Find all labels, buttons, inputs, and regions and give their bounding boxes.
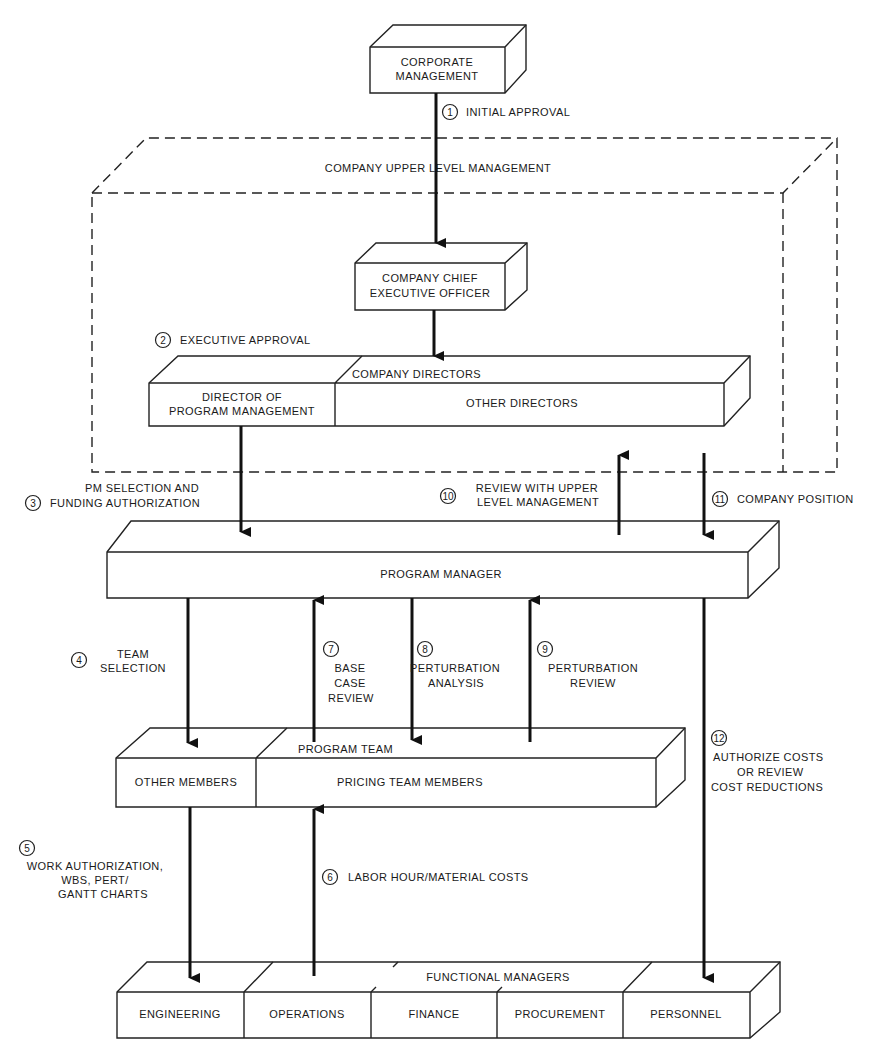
svg-text:WORK AUTHORIZATION,: WORK AUTHORIZATION,: [27, 860, 163, 872]
other-directors: OTHER DIRECTORS: [466, 397, 578, 409]
svg-text:PROGRAM MANAGEMENT: PROGRAM MANAGEMENT: [169, 405, 315, 417]
step-12-label: 12 AUTHORIZE COSTS OR REVIEW COST REDUCT…: [711, 731, 824, 794]
svg-text:AUTHORIZE COSTS: AUTHORIZE COSTS: [713, 751, 824, 763]
svg-text:REVIEW: REVIEW: [328, 692, 374, 704]
step-1-label: 1 INITIAL APPROVAL: [443, 105, 571, 120]
svg-text:PROGRAM MANAGER: PROGRAM MANAGER: [380, 568, 502, 580]
svg-text:MANAGEMENT: MANAGEMENT: [396, 70, 479, 82]
svg-text:COMPANY POSITION: COMPANY POSITION: [737, 493, 854, 505]
svg-text:REVIEW WITH UPPER: REVIEW WITH UPPER: [476, 482, 598, 494]
company-directors-box: COMPANY DIRECTORS DIRECTOR OF PROGRAM MA…: [149, 356, 750, 426]
functional-personnel: PERSONNEL: [650, 1008, 721, 1020]
svg-text:CASE: CASE: [334, 677, 366, 689]
svg-text:4: 4: [76, 655, 82, 666]
step-2-label: 2 EXECUTIVE APPROVAL: [156, 333, 311, 348]
svg-text:COMPANY CHIEF: COMPANY CHIEF: [382, 272, 478, 284]
svg-text:REVIEW: REVIEW: [570, 677, 616, 689]
svg-text:TEAM: TEAM: [117, 648, 149, 660]
step-10-label: 10 REVIEW WITH UPPER LEVEL MANAGEMENT: [441, 482, 600, 508]
step-4-label: 4 TEAM SELECTION: [72, 648, 166, 674]
svg-text:11: 11: [715, 494, 726, 505]
ceo-box: COMPANY CHIEF EXECUTIVE OFFICER: [355, 243, 527, 310]
svg-text:FUNDING AUTHORIZATION: FUNDING AUTHORIZATION: [50, 497, 200, 509]
step-11-label: 11 COMPANY POSITION: [713, 492, 854, 507]
functional-group-label: FUNCTIONAL MANAGERS: [426, 971, 569, 983]
svg-text:12: 12: [713, 733, 725, 744]
svg-text:OR REVIEW: OR REVIEW: [737, 766, 804, 778]
program-manager-box: PROGRAM MANAGER: [107, 521, 779, 598]
svg-text:EXECUTIVE OFFICER: EXECUTIVE OFFICER: [370, 287, 490, 299]
step-5-label: 5 WORK AUTHORIZATION, WBS, PERT/ GANTT C…: [20, 841, 164, 901]
functional-procurement: PROCUREMENT: [515, 1008, 606, 1020]
functional-finance: FINANCE: [408, 1008, 459, 1020]
svg-text:PERTURBATION: PERTURBATION: [548, 662, 638, 674]
svg-text:8: 8: [422, 644, 428, 655]
svg-text:5: 5: [24, 843, 30, 854]
svg-text:GANTT CHARTS: GANTT CHARTS: [58, 888, 148, 900]
functional-engineering: ENGINEERING: [139, 1008, 220, 1020]
svg-text:PM SELECTION AND: PM SELECTION AND: [85, 482, 199, 494]
program-team-box: PROGRAM TEAM OTHER MEMBERS PRICING TEAM …: [116, 728, 685, 807]
pricing-team-members: PRICING TEAM MEMBERS: [337, 776, 483, 788]
pricing-process-diagram: COMPANY UPPER LEVEL MANAGEMENT CORPORATE…: [0, 0, 887, 1061]
svg-text:PERTURBATION: PERTURBATION: [410, 662, 500, 674]
svg-text:LABOR HOUR/MATERIAL COSTS: LABOR HOUR/MATERIAL COSTS: [348, 871, 529, 883]
svg-text:SELECTION: SELECTION: [100, 662, 166, 674]
corporate-management-box: CORPORATE MANAGEMENT: [370, 25, 526, 93]
step-6-label: 6 LABOR HOUR/MATERIAL COSTS: [323, 870, 529, 885]
svg-text:3: 3: [30, 498, 36, 509]
svg-text:7: 7: [328, 644, 334, 655]
other-members: OTHER MEMBERS: [135, 776, 237, 788]
svg-text:9: 9: [542, 644, 548, 655]
svg-text:1: 1: [447, 107, 453, 118]
svg-text:INITIAL APPROVAL: INITIAL APPROVAL: [466, 106, 570, 118]
svg-text:CORPORATE: CORPORATE: [401, 56, 473, 68]
region-label: COMPANY UPPER LEVEL MANAGEMENT: [325, 162, 551, 174]
svg-text:BASE: BASE: [335, 662, 366, 674]
svg-text:ANALYSIS: ANALYSIS: [428, 677, 484, 689]
svg-text:10: 10: [442, 491, 454, 502]
svg-text:6: 6: [327, 872, 333, 883]
svg-text:COST REDUCTIONS: COST REDUCTIONS: [711, 781, 823, 793]
svg-text:EXECUTIVE APPROVAL: EXECUTIVE APPROVAL: [180, 334, 310, 346]
step-3-label: PM SELECTION AND 3 FUNDING AUTHORIZATION: [26, 482, 200, 511]
step-8-label: 8 PERTURBATION ANALYSIS: [410, 642, 500, 690]
directors-group-label: COMPANY DIRECTORS: [352, 368, 481, 380]
program-team-group-label: PROGRAM TEAM: [298, 743, 393, 755]
step-9-label: 9 PERTURBATION REVIEW: [538, 642, 638, 690]
svg-text:2: 2: [160, 335, 166, 346]
functional-operations: OPERATIONS: [269, 1008, 344, 1020]
svg-text:WBS, PERT/: WBS, PERT/: [61, 874, 129, 886]
functional-managers-box: FUNCTIONAL MANAGERS ENGINEERING OPERATIO…: [117, 962, 780, 1038]
step-7-label: 7 BASE CASE REVIEW: [324, 642, 375, 705]
svg-text:LEVEL MANAGEMENT: LEVEL MANAGEMENT: [477, 496, 599, 508]
director-program-management: DIRECTOR OF: [202, 391, 282, 403]
